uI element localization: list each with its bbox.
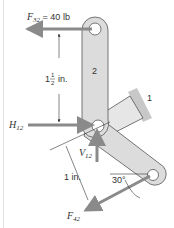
angle-label: 30°: [112, 175, 126, 185]
dimension-denominator: 2: [51, 80, 55, 86]
diagram-canvas: F32 = 40 lb 1 1 2 in. 2 1 H12 V12 1 in. …: [0, 0, 174, 228]
dimension-1-in-label: 1 in.: [64, 172, 81, 182]
dimension-whole: 1: [45, 74, 50, 84]
dimension-numerator: 1: [51, 72, 55, 78]
f32-label: F32 = 40 lb: [26, 11, 70, 24]
h12-label: H12: [8, 119, 24, 132]
f42-label: F42: [66, 210, 81, 223]
link-1-label: 1: [147, 93, 152, 103]
v12-label: V12: [79, 147, 93, 160]
link-2: [82, 17, 109, 138]
dimension-unit: in.: [58, 74, 68, 84]
link-2-label: 2: [92, 66, 97, 76]
mechanism-diagram: F32 = 40 lb 1 1 2 in. 2 1 H12 V12 1 in. …: [0, 0, 174, 228]
